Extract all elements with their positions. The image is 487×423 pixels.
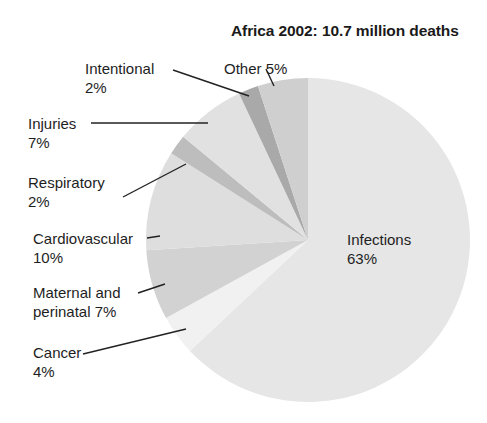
label-respiratory: Respiratory 2% xyxy=(28,173,105,211)
label-infections-value: 63% xyxy=(347,249,411,268)
label-intentional-value: 2% xyxy=(85,78,154,97)
pie-slices xyxy=(146,78,470,402)
label-maternal-name: Maternal and xyxy=(33,283,121,302)
label-other-name: Other 5% xyxy=(224,59,287,78)
label-respiratory-value: 2% xyxy=(28,192,105,211)
label-intentional: Intentional 2% xyxy=(85,59,154,97)
chart-title: Africa 2002: 10.7 million deaths xyxy=(231,22,459,40)
label-cancer: Cancer 4% xyxy=(33,343,81,381)
label-infections-name: Infections xyxy=(347,230,411,249)
label-cancer-name: Cancer xyxy=(33,343,81,362)
label-injuries-name: Injuries xyxy=(28,114,76,133)
label-cardiovascular: Cardiovascular 10% xyxy=(33,229,133,267)
label-respiratory-name: Respiratory xyxy=(28,173,105,192)
label-intentional-name: Intentional xyxy=(85,59,154,78)
leader-line-cancer xyxy=(83,329,186,354)
label-injuries-value: 7% xyxy=(28,133,76,152)
label-maternal-value: perinatal 7% xyxy=(33,302,121,321)
label-infections: Infections 63% xyxy=(347,230,411,268)
label-cardiovascular-value: 10% xyxy=(33,248,133,267)
label-injuries: Injuries 7% xyxy=(28,114,76,152)
label-other: Other 5% xyxy=(224,59,287,78)
label-cancer-value: 4% xyxy=(33,362,81,381)
label-maternal: Maternal and perinatal 7% xyxy=(33,283,121,321)
label-cardiovascular-name: Cardiovascular xyxy=(33,229,133,248)
